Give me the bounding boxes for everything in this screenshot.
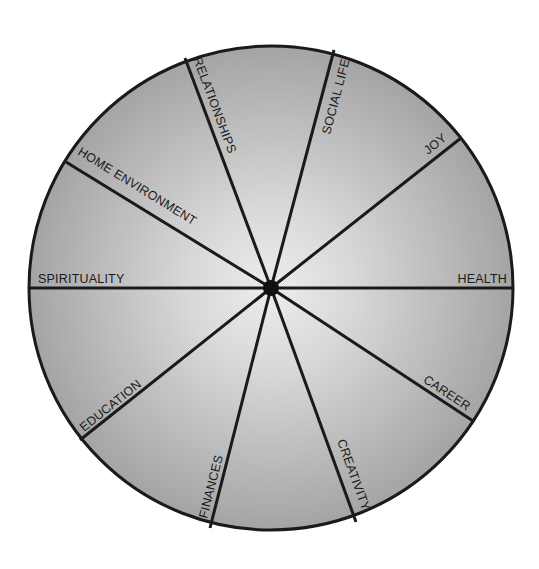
wheel-of-life-diagram: HEALTH CAREER CREATIVITY FINANCES EDUCAT… — [0, 0, 539, 569]
label-spirituality: SPIRITUALITY — [38, 272, 125, 286]
label-health: HEALTH — [457, 272, 507, 286]
wheel-hub — [263, 280, 279, 296]
